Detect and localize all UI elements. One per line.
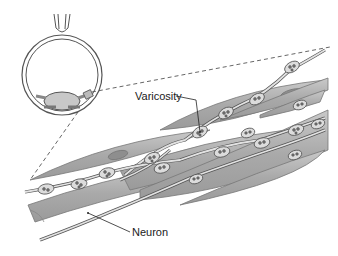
diagram-canvas: [0, 0, 338, 256]
neuron-label: Neuron: [132, 226, 168, 238]
eye-diagram: [22, 14, 102, 115]
neuron-leader-line: [88, 213, 130, 232]
varicosity-label: Varicosity: [135, 90, 182, 102]
